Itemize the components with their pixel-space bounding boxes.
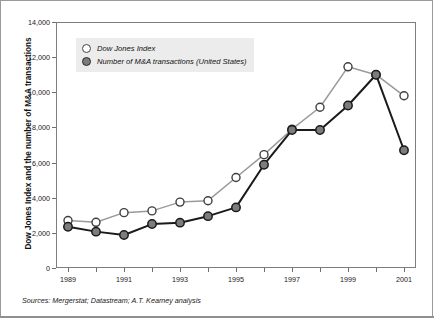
series-ma-transactions — [64, 71, 408, 240]
data-point-marker — [400, 92, 408, 100]
legend-label-ma-transactions: Number of M&A transactions (United State… — [97, 57, 247, 66]
data-point-marker — [204, 197, 212, 205]
data-point-marker — [148, 220, 156, 228]
data-point-marker — [316, 126, 324, 134]
data-point-marker — [64, 223, 72, 231]
legend-item-dow-jones-index: Dow Jones Index — [82, 42, 247, 55]
data-point-marker — [92, 227, 100, 235]
data-point-marker — [344, 63, 352, 71]
data-point-marker — [120, 209, 128, 217]
data-point-marker — [204, 212, 212, 220]
open-circle-icon — [82, 44, 91, 53]
series-line — [68, 67, 404, 223]
chart-figure: Dow Jones Index and the number of M&A tr… — [0, 0, 434, 319]
data-point-marker — [260, 151, 268, 159]
data-point-marker — [260, 160, 268, 168]
data-point-marker — [176, 198, 184, 206]
data-point-marker — [288, 126, 296, 134]
legend-label-dow-jones-index: Dow Jones Index — [97, 44, 155, 53]
data-point-marker — [344, 101, 352, 109]
data-point-marker — [372, 71, 380, 79]
source-note: Sources: Mergerstat; Datastream; A.T. Ke… — [22, 296, 201, 305]
data-point-marker — [316, 103, 324, 111]
chart-legend: Dow Jones Index Number of M&A transactio… — [76, 38, 254, 72]
data-point-marker — [232, 174, 240, 182]
series-dow-jones-index — [64, 63, 408, 227]
data-point-marker — [92, 218, 100, 226]
filled-circle-icon — [82, 57, 91, 66]
data-point-marker — [148, 207, 156, 215]
legend-item-ma-transactions: Number of M&A transactions (United State… — [82, 55, 247, 68]
bottom-divider — [0, 316, 434, 318]
data-point-marker — [232, 203, 240, 211]
data-point-marker — [120, 231, 128, 239]
data-point-marker — [400, 146, 408, 154]
data-point-marker — [176, 218, 184, 226]
